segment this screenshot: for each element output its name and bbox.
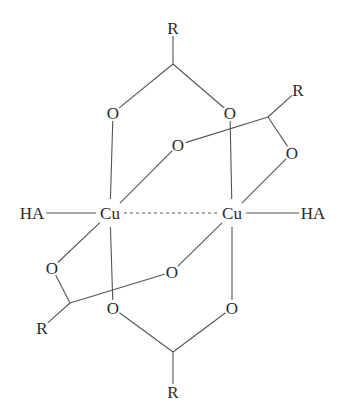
atom-label-ha_l: HA <box>20 204 45 223</box>
atom-label-o8: O <box>226 299 238 318</box>
copper-paddlewheel-structure: ROOROOHACuCuHAOOROOR <box>0 0 343 416</box>
bond-c_top-o2 <box>173 64 224 108</box>
bond-c_top-o1 <box>119 64 173 108</box>
bond-o3-cu1 <box>120 151 172 203</box>
atom-label-cu2: Cu <box>222 204 242 223</box>
atom-label-r_ur: R <box>292 81 304 100</box>
atom-label-o4: O <box>286 144 298 163</box>
bond-o7-c_bot <box>119 313 173 352</box>
bond-o5-c_l <box>56 275 70 303</box>
atom-label-r_ll: R <box>36 319 48 338</box>
bond-o8-c_bot <box>173 313 226 352</box>
bond-o4-cu2 <box>242 159 286 203</box>
atom-label-ha_r: HA <box>301 204 326 223</box>
bond-o1-cu1 <box>110 121 112 199</box>
bond-o6-cu2 <box>178 223 222 267</box>
atom-label-o1: O <box>107 104 119 123</box>
atom-label-cu1: Cu <box>100 204 120 223</box>
atom-label-o2: O <box>224 104 236 123</box>
atom-label-o5: O <box>46 259 58 278</box>
atom-label-r_bot: R <box>167 383 179 402</box>
atom-label-r_top: R <box>167 19 179 38</box>
bond-layer <box>46 36 299 384</box>
bond-r_ur-c_r <box>268 95 292 117</box>
bond-cu1-o5 <box>58 223 100 263</box>
atom-label-o7: O <box>107 299 119 318</box>
atom-label-o6: O <box>166 263 178 282</box>
bond-o2-cu2 <box>230 121 232 199</box>
bond-cu1-o7 <box>110 227 112 300</box>
atom-label-o3: O <box>172 136 184 155</box>
bond-c_r-o4 <box>268 117 288 146</box>
bond-c_l-r_ll <box>48 303 70 323</box>
atom-label-layer: ROOROOHACuCuHAOOROOR <box>20 19 326 402</box>
